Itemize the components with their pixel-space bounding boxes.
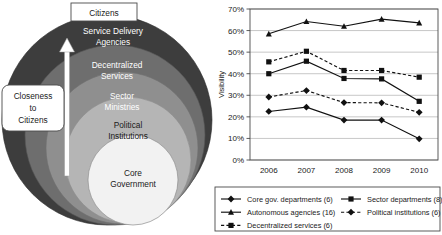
svg-text:Ministries: Ministries [104,102,139,112]
y-axis-ticks: 0%10%20%30%40%50%60%70% [228,5,244,165]
svg-text:Institutions: Institutions [108,131,148,141]
series-0 [265,104,422,143]
data-point [416,109,423,116]
svg-text:Service Delivery: Service Delivery [83,26,144,36]
line-chart-svg: 0%10%20%30%40%50%60%70% 2006200720082009… [213,0,442,235]
svg-text:Decentralized: Decentralized [92,60,143,70]
plot-border [250,9,438,160]
data-point [304,59,309,64]
legend-label: Core gov. departments (6) [247,195,333,204]
data-point [341,99,348,106]
onion-diagram-svg: Service Delivery Agencies Decentralized … [0,0,215,235]
y-tick-label: 70% [228,5,244,14]
x-tick-label: 2006 [260,166,278,175]
data-point [417,99,422,104]
data-point [417,75,422,80]
data-point [265,94,272,101]
data-point [265,108,272,115]
data-point [341,117,348,124]
svg-text:to: to [30,103,37,113]
y-tick-label: 40% [228,70,244,79]
onion-diagram: Service Delivery Agencies Decentralized … [0,0,215,235]
data-point [379,76,384,81]
x-axis-ticks: 20062007200820092010 [260,166,429,175]
data-point [304,49,309,54]
x-tick-label: 2007 [298,166,316,175]
series-2 [266,16,422,36]
y-tick-label: 20% [228,113,244,122]
x-tick-label: 2009 [373,166,391,175]
series-3 [265,87,422,116]
y-tick-label: 10% [228,134,244,143]
series-4 [266,49,422,80]
figure-root: Service Delivery Agencies Decentralized … [0,0,442,235]
legend-marker [228,223,233,228]
legend-label: Autonomous agencies (16) [247,208,335,217]
svg-text:Agencies: Agencies [96,37,130,47]
data-point [378,99,385,106]
chart-legend[interactable]: Core gov. departments (6)Autonomous agen… [215,187,442,231]
y-axis-title: Visibility [217,71,226,98]
x-tick-label: 2010 [410,166,428,175]
data-point [379,68,384,73]
data-point [341,68,346,73]
data-point [341,76,346,81]
data-point [303,87,310,94]
legend-marker [348,196,353,201]
y-tick-label: 60% [228,27,244,36]
legend-label: Political institutions (6) [367,208,441,217]
svg-text:Services: Services [101,71,133,81]
legend-label: Decentralized services (6) [247,221,332,230]
chart-series [265,16,422,142]
svg-text:Citizens: Citizens [89,8,119,18]
y-axis-title-label: Visibility [217,71,226,98]
svg-text:Government: Government [110,179,156,189]
closeness-to-citizens-callout: Closeness to Citizens [2,85,64,131]
y-tick-label: 0% [232,156,244,165]
data-point [266,59,271,64]
legend-label: Sector departments (8) [367,195,442,204]
ring-label-political-institutions: Political Institutions [108,120,148,141]
y-tick-label: 30% [228,91,244,100]
svg-text:Citizens: Citizens [18,115,48,125]
data-point [416,135,423,142]
y-tick-label: 50% [228,48,244,57]
svg-text:Sector: Sector [110,91,134,101]
svg-text:Closeness: Closeness [14,91,53,101]
svg-text:Political: Political [114,120,143,130]
data-point [378,117,385,124]
citizens-callout: Citizens [71,3,137,21]
x-tick-label: 2008 [335,166,353,175]
series-path [269,51,419,77]
data-point [303,104,310,111]
data-point [266,71,271,76]
visibility-line-chart: 0%10%20%30%40%50%60%70% 2006200720082009… [213,0,442,235]
series-1 [266,59,422,104]
chart-frame [250,9,438,160]
svg-text:Core: Core [124,168,142,178]
